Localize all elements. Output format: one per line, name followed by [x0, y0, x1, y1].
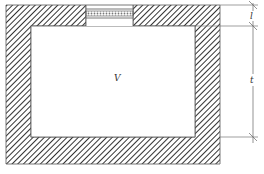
- dimension-line: [249, 1, 257, 143]
- chamber-diagram: l t V: [0, 0, 264, 174]
- inner-cavity: [31, 26, 195, 137]
- mesh-filter: [86, 11, 133, 16]
- neck-opening: [86, 5, 133, 26]
- label-neck-length: l: [250, 11, 253, 21]
- label-wall-thickness: t: [250, 75, 254, 85]
